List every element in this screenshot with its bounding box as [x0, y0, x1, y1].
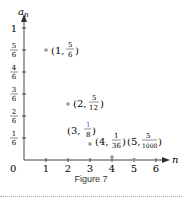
svg-text:5: 5	[131, 163, 137, 174]
svg-text:2: 2	[12, 108, 16, 116]
svg-text:4: 4	[109, 163, 115, 174]
svg-text:(1,: (1,	[51, 45, 64, 56]
svg-text:1: 1	[114, 132, 118, 140]
dotted-divider	[0, 196, 182, 197]
svg-text:36: 36	[112, 142, 121, 150]
svg-text:4: 4	[12, 64, 17, 72]
svg-text:8: 8	[86, 131, 90, 139]
origin-label: 0	[10, 163, 16, 174]
svg-text:1: 1	[43, 163, 49, 174]
svg-text:1: 1	[12, 130, 16, 138]
svg-text:): )	[100, 98, 104, 109]
svg-text:6: 6	[153, 163, 159, 174]
svg-text:3: 3	[12, 86, 16, 94]
svg-text:(2,: (2,	[73, 98, 86, 109]
svg-text:5: 5	[146, 132, 150, 140]
svg-text:6: 6	[12, 95, 17, 103]
svg-text:): )	[158, 136, 162, 147]
svg-text:3: 3	[87, 163, 93, 174]
y-axis-label: an	[18, 6, 29, 19]
svg-text:(4,: (4,	[95, 136, 108, 147]
point-labels: (1,56) (2,512) (3,18) (4,136) (5,51008)	[51, 41, 162, 150]
x-axis-arrow-icon	[162, 157, 170, 163]
svg-text:5: 5	[12, 42, 16, 50]
x-axis-label: n	[172, 154, 178, 165]
figure-caption: Figure 7	[0, 174, 182, 184]
svg-text:6: 6	[12, 139, 17, 147]
svg-text:6: 6	[12, 117, 17, 125]
svg-text:(3,: (3,	[67, 125, 80, 136]
svg-text:): )	[75, 45, 79, 56]
svg-text:(5,: (5,	[127, 136, 140, 147]
svg-text:): )	[122, 136, 126, 147]
sequence-plot: an n 0 1 2 3 4 5 6 1 56 46 36 26 16 (1,5…	[0, 0, 182, 175]
svg-text:2: 2	[65, 163, 71, 174]
svg-text:): )	[92, 125, 96, 136]
svg-text:5: 5	[68, 41, 72, 49]
svg-text:1: 1	[86, 121, 90, 129]
svg-text:12: 12	[89, 104, 98, 112]
svg-text:1008: 1008	[142, 142, 157, 149]
svg-text:5: 5	[92, 94, 96, 102]
svg-text:6: 6	[12, 73, 17, 81]
svg-text:1: 1	[11, 23, 17, 34]
svg-text:6: 6	[12, 51, 17, 59]
svg-text:6: 6	[68, 51, 73, 59]
